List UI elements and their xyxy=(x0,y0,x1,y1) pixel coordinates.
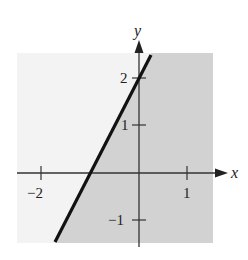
y-axis-label: y xyxy=(132,22,142,40)
y-tick-label-1: 1 xyxy=(121,117,129,133)
y-axis-arrow-icon xyxy=(135,40,144,53)
x-axis-arrow-icon xyxy=(215,169,228,178)
inequality-graph: x y −2 1 2 1 −1 xyxy=(0,0,248,260)
x-tick-label-neg2: −2 xyxy=(27,185,43,201)
x-tick-label-1: 1 xyxy=(183,185,191,201)
x-axis-label: x xyxy=(230,164,238,181)
y-tick-label-neg1: −1 xyxy=(108,212,124,228)
y-tick-label-2: 2 xyxy=(120,70,128,86)
